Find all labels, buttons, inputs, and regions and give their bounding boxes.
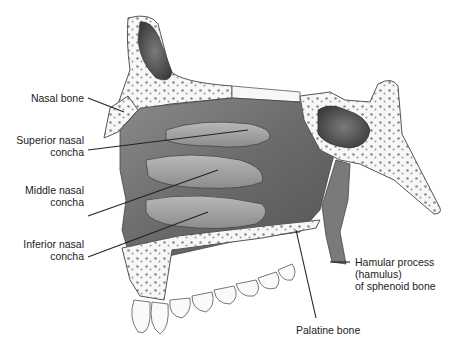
label-superior-nasal-concha: Superior nasal concha (0, 134, 84, 158)
label-text: Inferior nasal (0, 238, 84, 250)
label-inferior-nasal-concha: Inferior nasal concha (0, 238, 84, 262)
label-text: concha (0, 146, 84, 158)
superior-nasal-concha-shape (166, 122, 270, 147)
label-text: of sphenoid bone (355, 280, 457, 292)
label-nasal-bone: Nasal bone (0, 92, 84, 104)
label-palatine-bone: Palatine bone (296, 324, 396, 336)
label-text: concha (0, 196, 84, 208)
label-text: Nasal bone (0, 92, 84, 104)
label-text: Middle nasal (0, 184, 84, 196)
label-middle-nasal-concha: Middle nasal concha (0, 184, 84, 208)
label-hamular-process: Hamular process (hamulus) of sphenoid bo… (355, 256, 457, 292)
label-text: concha (0, 250, 84, 262)
label-text: Hamular process (355, 256, 457, 268)
label-text: Palatine bone (296, 324, 396, 336)
nasal-cavity-diagram: Nasal bone Superior nasal concha Middle … (0, 0, 457, 351)
label-text: (hamulus) (355, 268, 457, 280)
anatomy-illustration (0, 0, 457, 351)
label-text: Superior nasal (0, 134, 84, 146)
